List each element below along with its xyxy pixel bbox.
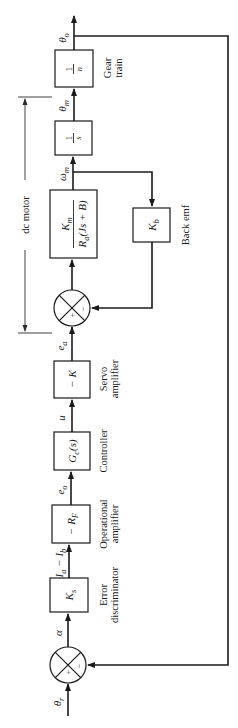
back-emf-label: Back emf (180, 204, 191, 245)
u-label: u (55, 415, 67, 421)
ea-label: ea (54, 341, 69, 350)
gear-denominator: n (74, 67, 84, 71)
controller-label: Controller (98, 429, 109, 473)
theta-r-label: θr (51, 697, 66, 706)
error-discriminator-label: Errordiscriminator (98, 567, 120, 623)
gear-numerator: 1 (64, 67, 74, 71)
theta-o-label: θo (56, 33, 71, 43)
input-sum-minus: − (74, 663, 84, 668)
eo-label: eo (54, 485, 69, 494)
motor-sum-minus: − (78, 306, 88, 311)
unity-feedback-line (74, 36, 228, 665)
motor-sum-plus: + (67, 312, 77, 317)
gear-train-label: Geartrain (102, 57, 124, 78)
servo-k-tf: − K (66, 370, 78, 388)
back-emf-feedback-line (92, 242, 152, 308)
servo-amplifier-label: Servoamplifier (98, 359, 120, 398)
operational-amplifier-label: Operationalamplifier (98, 499, 120, 549)
dc-motor-label: dc motor (20, 196, 31, 234)
theta-m-label: θm (56, 100, 71, 112)
current-difference-label: Ia − Ib (53, 549, 68, 579)
alpha-label: α (52, 630, 64, 636)
block-diagram: dc motor θr α Ia − Ib eo u ea ωm θm θo +… (0, 0, 238, 728)
omega-m-label: ωm (56, 167, 71, 181)
input-sum-plus: + (63, 669, 73, 674)
